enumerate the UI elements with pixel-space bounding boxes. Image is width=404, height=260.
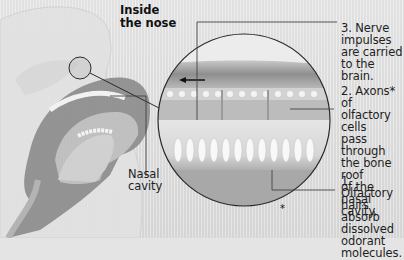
magnifier-small-circle <box>69 57 91 79</box>
diagram-title: Inside the nose <box>120 4 176 29</box>
label-olfactory-hairs: 1. Olfactory hairs absorb dissolved odor… <box>341 175 404 259</box>
head-outline <box>0 7 150 238</box>
zoomed-view <box>150 30 340 220</box>
label-nerve-impulses: 3. Nerve impulses are carried to the bra… <box>341 22 404 82</box>
label-nasal-cavity: Nasal cavity <box>128 168 162 192</box>
footnote-marker: * <box>280 203 285 214</box>
